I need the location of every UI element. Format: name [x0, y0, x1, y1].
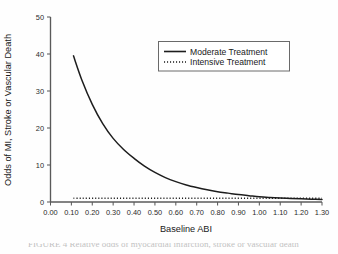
x-tick-label: 1.00 [252, 208, 266, 217]
x-tick-label: 0.00 [43, 208, 57, 217]
x-tick-label: 1.20 [294, 208, 308, 217]
x-tick-label: 0.40 [127, 208, 141, 217]
odds-vs-baseline-abi-chart: 01020304050 0.000.100.200.300.400.500.60… [0, 0, 338, 243]
chart-legend: Moderate Treatment Intensive Treatment [159, 42, 290, 72]
x-tick-label: 0.60 [169, 208, 183, 217]
figure-caption-strip: FIGURE 4 Relative odds of myocardial inf… [0, 243, 338, 254]
y-axis-title: Odds of MI, Stroke or Vascular Death [3, 34, 13, 186]
y-tick-label: 20 [36, 124, 44, 133]
y-tick-label: 30 [36, 87, 44, 96]
x-axis-title: Baseline ABI [160, 224, 212, 234]
x-tick-label: 1.30 [315, 208, 329, 217]
x-tick-label: 0.70 [189, 208, 203, 217]
x-tick-label: 0.50 [148, 208, 162, 217]
y-tick-label: 10 [36, 161, 44, 170]
x-tick-label: 1.10 [273, 208, 287, 217]
x-tick-label: 0.30 [106, 208, 120, 217]
legend-label-intensive-treatment: Intensive Treatment [190, 57, 266, 67]
legend-label-moderate-treatment: Moderate Treatment [190, 47, 268, 57]
x-tick-label: 0.20 [85, 208, 99, 217]
figure-panel: 01020304050 0.000.100.200.300.400.500.60… [0, 0, 338, 254]
y-tick-label: 40 [36, 50, 44, 59]
x-tick-label: 0.10 [64, 208, 78, 217]
y-tick-label: 0 [40, 198, 44, 207]
x-tick-label: 0.90 [231, 208, 245, 217]
x-tick-label: 0.80 [210, 208, 224, 217]
y-tick-label: 50 [36, 13, 44, 22]
figure-caption-text: FIGURE 4 Relative odds of myocardial inf… [28, 243, 299, 249]
